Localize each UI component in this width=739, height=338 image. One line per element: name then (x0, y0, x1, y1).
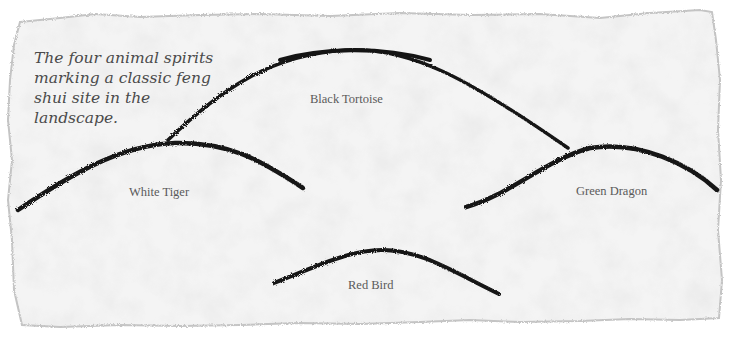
label-white-tiger: White Tiger (129, 185, 189, 200)
label-red-bird: Red Bird (348, 278, 393, 293)
label-green-dragon: Green Dragon (576, 184, 647, 199)
label-black-tortoise: Black Tortoise (310, 92, 383, 107)
diagram-caption: The four animal spirits marking a classi… (34, 48, 234, 128)
feng-shui-diagram: The four animal spirits marking a classi… (0, 0, 739, 338)
